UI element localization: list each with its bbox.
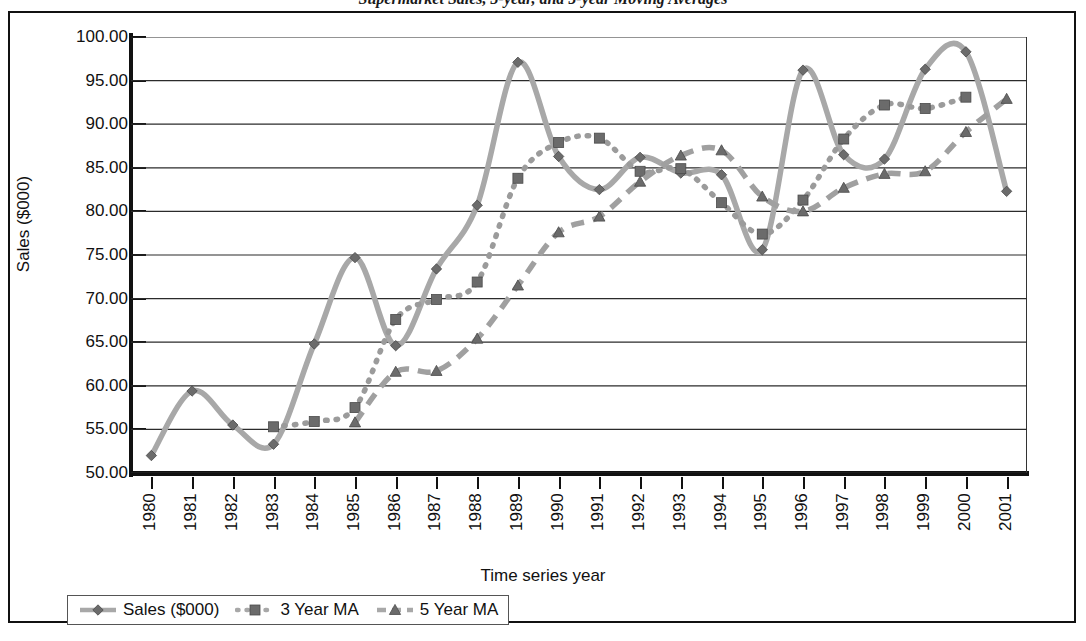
chart-legend: Sales ($000)3 Year MA5 Year MA bbox=[67, 595, 509, 625]
x-tick-mark bbox=[925, 477, 927, 489]
x-tick-mark bbox=[884, 477, 886, 489]
x-tick-mark bbox=[966, 477, 968, 489]
legend-label: Sales ($000) bbox=[123, 600, 219, 620]
data-point-square bbox=[676, 164, 686, 174]
data-point-square bbox=[839, 134, 849, 144]
x-tick-mark bbox=[1007, 477, 1009, 489]
data-point-square bbox=[635, 166, 645, 176]
legend-swatch-square-icon bbox=[235, 603, 275, 617]
legend-swatch-diamond-icon bbox=[78, 603, 118, 617]
legend-swatch-triangle-icon bbox=[375, 603, 415, 617]
data-point-square bbox=[391, 315, 401, 325]
x-tick-label: 1991 bbox=[588, 493, 610, 559]
x-tick-label: 1993 bbox=[670, 493, 692, 559]
x-tick-label: 1995 bbox=[751, 493, 773, 559]
y-axis-title: Sales ($000) bbox=[14, 124, 34, 324]
x-tick-mark bbox=[559, 477, 561, 489]
x-axis-title: Time series year bbox=[0, 566, 1086, 586]
data-point-square bbox=[513, 173, 523, 183]
x-tick-mark bbox=[722, 477, 724, 489]
series-canvas bbox=[131, 37, 1027, 473]
x-tick-mark bbox=[640, 477, 642, 489]
x-tick-label: 1996 bbox=[792, 493, 814, 559]
data-point-square bbox=[594, 133, 604, 143]
x-tick-mark bbox=[274, 477, 276, 489]
x-tick-label: 1998 bbox=[873, 493, 895, 559]
x-tick-label: 1984 bbox=[303, 493, 325, 559]
x-tick-mark bbox=[233, 477, 235, 489]
series-3 bbox=[349, 93, 1012, 427]
data-point-square bbox=[757, 229, 767, 239]
series-line bbox=[355, 99, 1007, 423]
legend-label: 3 Year MA bbox=[280, 600, 358, 620]
data-point-square bbox=[879, 100, 889, 110]
x-tick-mark bbox=[314, 477, 316, 489]
x-tick-mark bbox=[844, 477, 846, 489]
x-tick-mark bbox=[762, 477, 764, 489]
x-tick-label: 1999 bbox=[914, 493, 936, 559]
data-point-square bbox=[431, 294, 441, 304]
x-tick-label: 2001 bbox=[996, 493, 1018, 559]
data-point-square bbox=[350, 403, 360, 413]
x-tick-label: 1992 bbox=[629, 493, 651, 559]
x-tick-mark bbox=[436, 477, 438, 489]
legend-item[interactable]: Sales ($000) bbox=[78, 600, 219, 620]
x-tick-mark bbox=[803, 477, 805, 489]
x-tick-label: 1982 bbox=[222, 493, 244, 559]
data-point-square bbox=[961, 92, 971, 102]
data-point-diamond bbox=[93, 605, 103, 615]
data-point-square bbox=[554, 138, 564, 148]
x-tick-label: 1994 bbox=[711, 493, 733, 559]
x-tick-label: 1986 bbox=[385, 493, 407, 559]
series-line bbox=[274, 97, 966, 427]
x-tick-mark bbox=[151, 477, 153, 489]
x-tick-mark bbox=[518, 477, 520, 489]
data-point-diamond bbox=[594, 184, 604, 194]
data-point-triangle bbox=[1001, 93, 1012, 103]
x-tick-label: 1983 bbox=[263, 493, 285, 559]
legend-item[interactable]: 5 Year MA bbox=[375, 600, 498, 620]
legend-item[interactable]: 3 Year MA bbox=[235, 600, 358, 620]
x-tick-label: 1987 bbox=[425, 493, 447, 559]
x-tick-mark bbox=[681, 477, 683, 489]
data-point-square bbox=[309, 417, 319, 427]
x-tick-mark bbox=[192, 477, 194, 489]
series-2 bbox=[269, 92, 971, 432]
x-tick-label: 1981 bbox=[181, 493, 203, 559]
x-tick-mark bbox=[599, 477, 601, 489]
x-tick-label: 1985 bbox=[344, 493, 366, 559]
x-tick-label: 1997 bbox=[833, 493, 855, 559]
x-tick-label: 2000 bbox=[955, 493, 977, 559]
x-tick-mark bbox=[477, 477, 479, 489]
x-tick-mark bbox=[396, 477, 398, 489]
data-point-square bbox=[250, 605, 260, 615]
legend-label: 5 Year MA bbox=[420, 600, 498, 620]
data-point-square bbox=[269, 422, 279, 432]
x-tick-label: 1980 bbox=[140, 493, 162, 559]
x-tick-label: 1990 bbox=[548, 493, 570, 559]
data-point-square bbox=[920, 104, 930, 114]
plot-area bbox=[131, 37, 1027, 473]
x-tick-label: 1989 bbox=[507, 493, 529, 559]
data-point-square bbox=[472, 277, 482, 287]
data-point-square bbox=[717, 198, 727, 208]
data-point-square bbox=[798, 195, 808, 205]
x-tick-label: 1988 bbox=[466, 493, 488, 559]
x-tick-mark bbox=[355, 477, 357, 489]
